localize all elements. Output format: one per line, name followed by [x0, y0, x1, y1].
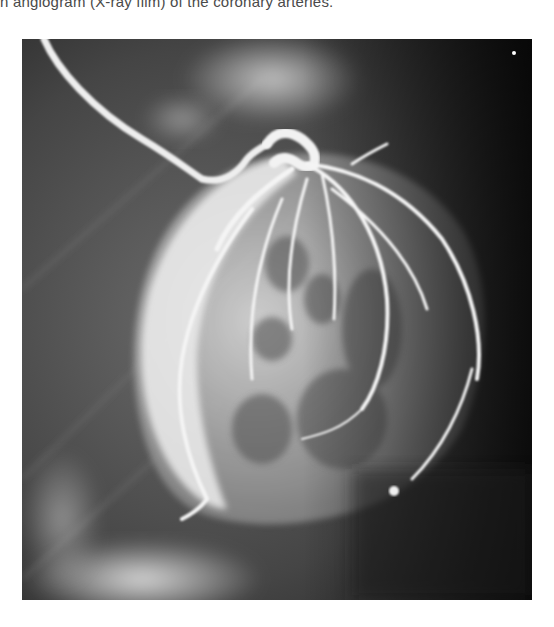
- angiogram-image: [22, 39, 532, 600]
- angiogram-illustration: [22, 39, 532, 600]
- figure-caption: n angiogram (X-ray film) of the coronary…: [0, 0, 333, 10]
